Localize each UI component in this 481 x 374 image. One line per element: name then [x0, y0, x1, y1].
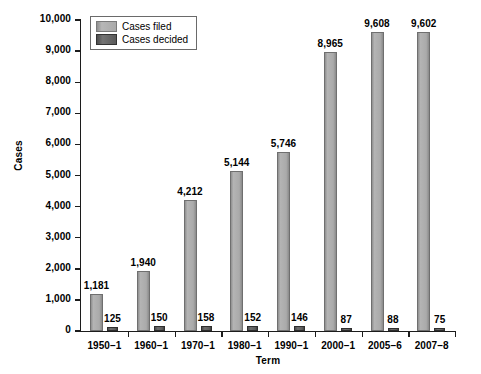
x-tick-label: 2007–8	[404, 340, 460, 351]
bar-cases-decided	[154, 326, 165, 331]
bar-value-label-cases-decided: 146	[280, 312, 320, 323]
bar-cases-filed	[417, 32, 430, 331]
x-axis-title: Term	[80, 355, 456, 366]
bar-value-label-cases-decided: 88	[373, 314, 413, 325]
y-axis-title: Cases	[13, 116, 24, 196]
bar-value-label-cases-filed: 4,212	[170, 186, 210, 197]
bar-cases-decided	[201, 326, 212, 331]
x-tick-mark	[128, 331, 129, 337]
bar-value-label-cases-decided: 152	[233, 312, 273, 323]
bar-cases-decided	[294, 326, 305, 331]
bar-cases-decided	[388, 328, 399, 331]
bar-cases-filed	[371, 32, 384, 331]
bar-value-label-cases-decided: 75	[420, 314, 460, 325]
bar-cases-decided	[341, 328, 352, 331]
bar-cases-filed	[230, 171, 243, 331]
y-tick-label: 4,000	[45, 200, 71, 211]
bar-value-label-cases-decided: 125	[93, 313, 133, 324]
legend-swatch-icon-cases-decided	[96, 34, 117, 45]
bar-cases-decided	[247, 326, 258, 331]
x-tick-mark	[268, 331, 269, 337]
y-tick-label: 8,000	[45, 75, 71, 86]
y-tick-label: 9,000	[45, 44, 71, 55]
y-tick-label: 5,000	[45, 169, 71, 180]
bar-value-label-cases-decided: 150	[139, 312, 179, 323]
bar-value-label-cases-filed: 8,965	[310, 38, 350, 49]
bar-cases-filed	[277, 152, 290, 331]
y-tick-label: 3,000	[45, 231, 71, 242]
bar-value-label-cases-filed: 5,746	[264, 138, 304, 149]
bar-value-label-cases-filed: 9,602	[404, 18, 444, 29]
x-tick-mark	[315, 331, 316, 337]
bar-value-label-cases-filed: 9,608	[357, 18, 397, 29]
bar-value-label-cases-filed: 1,181	[77, 280, 117, 291]
x-tick-mark	[175, 331, 176, 337]
bar-cases-filed	[324, 52, 337, 331]
y-tick-label: 1,000	[45, 293, 71, 304]
chart-legend: Cases filed Cases decided	[90, 16, 197, 50]
legend-label-cases-filed: Cases filed	[122, 21, 171, 32]
legend-label-cases-decided: Cases decided	[122, 34, 188, 45]
plot-area: 1,1811251,9401504,2121585,1441525,746146…	[81, 20, 455, 331]
legend-item-cases-filed: Cases filed	[96, 21, 188, 32]
y-tick-label: 7,000	[45, 106, 71, 117]
legend-swatch-icon-cases-filed	[96, 21, 117, 32]
bar-cases-decided	[107, 327, 118, 331]
bar-value-label-cases-filed: 1,940	[123, 257, 163, 268]
bar-value-label-cases-decided: 158	[186, 312, 226, 323]
y-tick-label: 6,000	[45, 137, 71, 148]
bar-value-label-cases-filed: 5,144	[217, 157, 257, 168]
x-tick-mark	[455, 331, 456, 337]
x-tick-mark	[408, 331, 409, 337]
legend-item-cases-decided: Cases decided	[96, 34, 188, 45]
x-tick-mark	[221, 331, 222, 337]
y-tick-label: 0	[65, 324, 71, 335]
bar-chart: Cases Term 01,0002,0003,0004,0005,0006,0…	[0, 0, 481, 374]
bar-value-label-cases-decided: 87	[326, 314, 366, 325]
y-tick-label: 10,000	[40, 13, 71, 24]
bar-cases-decided	[434, 328, 445, 331]
x-tick-mark	[362, 331, 363, 337]
y-tick-label: 2,000	[45, 262, 71, 273]
